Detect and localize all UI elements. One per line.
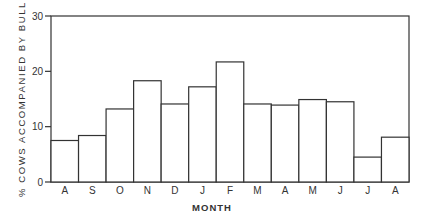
x-tick-label: N — [144, 185, 151, 196]
bar — [271, 105, 299, 182]
bar — [244, 104, 272, 182]
y-tick-label: 20 — [32, 66, 44, 77]
bar — [51, 141, 79, 183]
bar — [134, 81, 162, 182]
y-tick-label: 10 — [32, 121, 44, 132]
x-tick-label: J — [365, 185, 370, 196]
x-tick-label: A — [392, 185, 399, 196]
bar — [106, 109, 134, 182]
x-tick-label: A — [282, 185, 289, 196]
x-tick-label: S — [89, 185, 96, 196]
x-tick-label: M — [253, 185, 261, 196]
x-tick-label: D — [171, 185, 178, 196]
x-axis-labels: ASONDJFMAMJJA — [61, 185, 398, 196]
x-tick-label: F — [227, 185, 233, 196]
x-tick-label: J — [338, 185, 343, 196]
x-axis-title: MONTH — [192, 202, 232, 213]
y-axis-ticks: 0102030 — [32, 11, 51, 188]
bar — [354, 157, 382, 182]
y-axis-title: % COWS ACCOMPANIED BY BULL — [16, 1, 27, 197]
bar — [189, 87, 217, 182]
bars — [51, 62, 409, 182]
x-tick-label: J — [200, 185, 205, 196]
y-tick-label: 0 — [37, 177, 43, 188]
bar-chart: 0102030 ASONDJFMAMJJA MONTH % COWS ACCOM… — [0, 0, 421, 222]
bar — [326, 102, 354, 182]
bar — [381, 137, 409, 182]
x-tick-label: A — [61, 185, 68, 196]
bar — [79, 136, 107, 182]
y-tick-label: 30 — [32, 11, 44, 22]
x-tick-label: M — [308, 185, 316, 196]
x-tick-label: O — [116, 185, 124, 196]
bar — [161, 104, 189, 182]
bar — [216, 62, 244, 182]
bar — [299, 100, 327, 182]
